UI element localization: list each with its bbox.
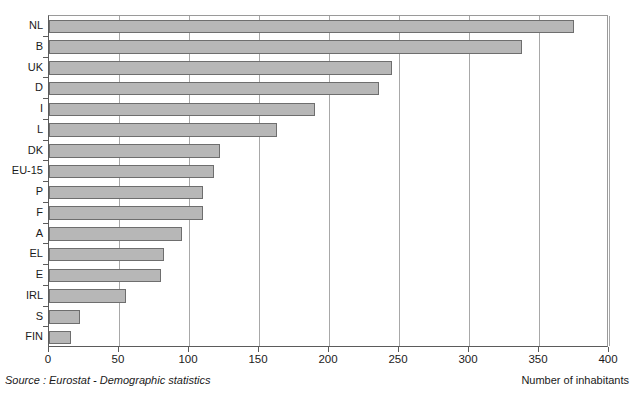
bar-row	[49, 58, 607, 79]
bar-nl	[49, 20, 574, 34]
bar-row	[49, 307, 607, 328]
y-axis-label-e: E	[36, 264, 43, 285]
bar-row	[49, 224, 607, 245]
bar-row	[49, 244, 607, 265]
x-axis-tick-label: 250	[373, 353, 423, 365]
bar-row	[49, 16, 607, 37]
bar-row	[49, 327, 607, 348]
bar-uk	[49, 61, 392, 75]
bar-row	[49, 182, 607, 203]
y-axis-label-fin: FIN	[25, 326, 43, 347]
x-axis-tick-label: 0	[23, 353, 73, 365]
plot-area	[48, 15, 608, 347]
bar-row	[49, 78, 607, 99]
bar-b	[49, 40, 522, 54]
bar-s	[49, 310, 80, 324]
y-axis-label-uk: UK	[28, 57, 43, 78]
bar-el	[49, 248, 164, 262]
y-axis-label-eu-15: EU-15	[12, 160, 43, 181]
y-axis-label-nl: NL	[29, 15, 43, 36]
bar-row	[49, 161, 607, 182]
y-axis-label-d: D	[35, 77, 43, 98]
x-axis-tick	[118, 347, 119, 352]
x-axis-tick	[468, 347, 469, 352]
x-axis-tick	[538, 347, 539, 352]
y-axis-label-irl: IRL	[26, 285, 43, 306]
x-axis-tick-label: 300	[443, 353, 493, 365]
bar-eu-15	[49, 165, 214, 179]
x-axis-tick	[328, 347, 329, 352]
y-axis-label-el: EL	[30, 243, 43, 264]
y-axis-label-f: F	[36, 202, 43, 223]
bar-row	[49, 203, 607, 224]
y-axis-label-l: L	[37, 119, 43, 140]
chart-figure: NLBUKDILDKEU-15PFAELEIRLSFIN 05010015020…	[0, 0, 637, 394]
x-axis-tick-label: 150	[233, 353, 283, 365]
bar-dk	[49, 144, 220, 158]
y-axis-label-i: I	[40, 98, 43, 119]
y-axis-label-a: A	[36, 223, 43, 244]
bar-e	[49, 269, 161, 283]
x-axis-tick	[398, 347, 399, 352]
bar-p	[49, 186, 203, 200]
bar-row	[49, 286, 607, 307]
bar-fin	[49, 331, 71, 345]
x-axis-tick	[188, 347, 189, 352]
bar-row	[49, 99, 607, 120]
y-axis-label-p: P	[36, 181, 43, 202]
x-axis-tick-label: 50	[93, 353, 143, 365]
cropped-title-strip	[0, 0, 637, 9]
x-axis-tick	[258, 347, 259, 352]
bar-row	[49, 37, 607, 58]
bar-d	[49, 82, 379, 96]
bar-a	[49, 227, 182, 241]
y-axis-label-dk: DK	[28, 140, 43, 161]
bar-l	[49, 123, 277, 137]
bar-row	[49, 141, 607, 162]
x-axis-tick-label: 400	[583, 353, 633, 365]
bar-i	[49, 103, 315, 117]
y-axis-label-s: S	[36, 306, 43, 327]
gridline	[609, 16, 610, 346]
x-axis-tick	[608, 347, 609, 352]
x-axis-tick-label: 350	[513, 353, 563, 365]
bar-row	[49, 265, 607, 286]
bar-row	[49, 120, 607, 141]
x-axis-tick-label: 100	[163, 353, 213, 365]
x-axis-caption: Number of inhabitants	[521, 374, 629, 386]
y-axis-category-labels: NLBUKDILDKEU-15PFAELEIRLSFIN	[0, 15, 43, 347]
bar-series	[49, 16, 607, 346]
bar-f	[49, 206, 203, 220]
x-axis-tick	[48, 347, 49, 352]
bar-irl	[49, 289, 126, 303]
source-note: Source : Eurostat - Demographic statisti…	[5, 374, 210, 386]
y-axis-label-b: B	[36, 36, 43, 57]
x-axis-tick-label: 200	[303, 353, 353, 365]
